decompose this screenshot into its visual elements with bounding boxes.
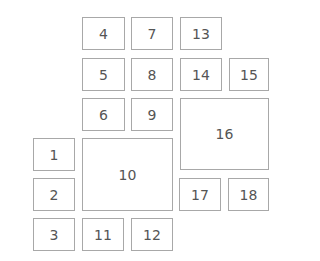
box-3: 3 [33,218,75,251]
box-1: 1 [33,138,75,171]
box-label: 11 [94,227,112,243]
box-label: 2 [50,187,59,203]
box-12: 12 [131,218,173,251]
box-17: 17 [179,178,221,211]
box-label: 10 [119,167,137,183]
box-6: 6 [82,98,125,131]
box-7: 7 [131,17,173,50]
box-16: 16 [180,98,269,170]
box-label: 4 [99,26,108,42]
box-label: 18 [240,187,258,203]
box-15: 15 [229,58,269,91]
box-label: 1 [50,147,59,163]
box-label: 7 [148,26,157,42]
box-2: 2 [33,178,75,211]
box-label: 9 [148,107,157,123]
box-label: 3 [50,227,59,243]
box-9: 9 [131,98,173,131]
box-label: 14 [192,67,210,83]
box-4: 4 [82,17,125,50]
box-label: 5 [99,67,108,83]
box-label: 16 [216,126,234,142]
box-18: 18 [228,178,269,211]
box-5: 5 [82,58,125,91]
box-10: 10 [82,138,173,211]
box-11: 11 [82,218,124,251]
box-label: 6 [99,107,108,123]
box-8: 8 [131,58,173,91]
box-label: 17 [191,187,209,203]
box-label: 13 [192,26,210,42]
box-label: 12 [143,227,161,243]
box-label: 15 [240,67,258,83]
box-14: 14 [180,58,222,91]
box-13: 13 [180,17,222,50]
box-label: 8 [148,67,157,83]
